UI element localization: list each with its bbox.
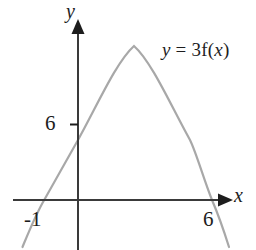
x-axis-arrowhead	[218, 194, 233, 207]
curve-equation-operator: =	[171, 39, 192, 60]
y-axis-label: y	[66, 1, 75, 21]
curve-y-equals-3fx	[23, 46, 230, 247]
x-tick-label-6: 6	[203, 209, 214, 230]
curve-equation-lhs: y	[162, 39, 171, 60]
x-axis-label: x	[234, 185, 243, 205]
curve-equation-label: y = 3f(x)	[162, 40, 229, 59]
x-tick-label-minus-1: -1	[24, 209, 42, 230]
curve-equation-paren-close: )	[223, 39, 230, 60]
curve-equation-coefficient: 3f(	[191, 39, 214, 60]
y-tick-label-6: 6	[45, 113, 56, 134]
curve-equation-variable: x	[214, 39, 223, 60]
